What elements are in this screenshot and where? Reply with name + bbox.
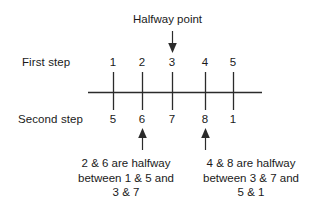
right-caption-line-3: 5 & 1 — [203, 185, 299, 200]
first-step-value-2: 2 — [135, 56, 149, 68]
left-caption-line-1: 2 & 6 are halfway — [78, 156, 174, 171]
first-step-value-1: 1 — [106, 56, 120, 68]
halfway-point-diagram: Halfway point First step 1 2 3 4 5 Secon… — [0, 0, 314, 215]
left-caption: 2 & 6 are halfway between 1 & 5 and 3 & … — [78, 156, 174, 200]
right-caption-arrow-head — [201, 128, 210, 138]
first-step-value-3: 3 — [165, 56, 179, 68]
right-caption: 4 & 8 are halfway between 3 & 7 and 5 & … — [203, 156, 299, 200]
halfway-point-callout: Halfway point — [133, 13, 202, 25]
right-caption-line-1: 4 & 8 are halfway — [203, 156, 299, 171]
first-step-value-5: 5 — [226, 56, 240, 68]
right-caption-line-2: between 3 & 7 and — [203, 171, 299, 186]
halfway-arrow-head — [168, 43, 177, 53]
first-step-value-4: 4 — [198, 56, 212, 68]
left-caption-line-2: between 1 & 5 and — [78, 171, 174, 186]
second-step-row-label: Second step — [18, 113, 83, 125]
second-step-value-2: 6 — [135, 113, 149, 125]
first-step-row-label: First step — [22, 56, 70, 68]
second-step-value-5: 1 — [226, 113, 240, 125]
second-step-value-3: 7 — [165, 113, 179, 125]
left-caption-arrow-head — [138, 128, 147, 138]
second-step-value-4: 8 — [198, 113, 212, 125]
left-caption-line-3: 3 & 7 — [78, 185, 174, 200]
second-step-value-1: 5 — [106, 113, 120, 125]
